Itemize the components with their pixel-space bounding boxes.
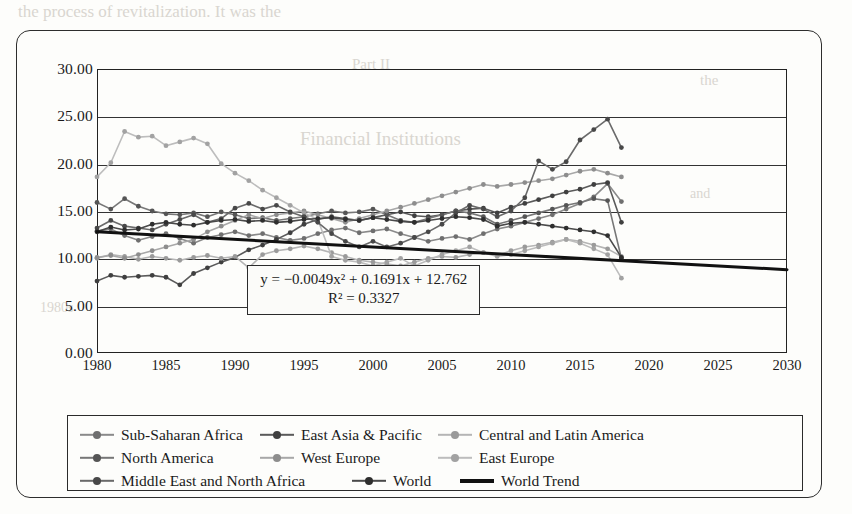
data-point — [412, 235, 417, 240]
data-point — [522, 180, 527, 185]
data-point — [315, 231, 320, 236]
data-point — [177, 139, 182, 144]
data-point — [150, 222, 155, 227]
data-point — [495, 224, 500, 229]
data-point — [578, 200, 583, 205]
legend-swatch-icon — [80, 429, 114, 441]
data-point — [302, 217, 307, 222]
data-point — [260, 231, 265, 236]
data-point — [329, 254, 334, 259]
data-point — [164, 211, 169, 216]
legend-marker-icon — [451, 454, 459, 462]
data-point — [550, 176, 555, 181]
data-point — [95, 279, 100, 284]
data-point — [150, 209, 155, 214]
data-point — [371, 228, 376, 233]
data-point — [219, 161, 224, 166]
data-point — [205, 214, 210, 219]
legend-item[interactable]: Central and Latin America — [438, 426, 673, 444]
data-point — [219, 210, 224, 215]
data-point — [398, 205, 403, 210]
data-point — [481, 217, 486, 222]
data-point — [191, 212, 196, 217]
data-point — [522, 201, 527, 206]
data-point — [302, 236, 307, 241]
data-point — [246, 178, 251, 183]
data-point — [150, 248, 155, 253]
legend-item[interactable]: East Europe — [438, 449, 673, 467]
equation-line-1: y = −0.0049x² + 0.1691x + 12.762 — [260, 271, 467, 287]
data-point — [219, 232, 224, 237]
legend-swatch-icon — [260, 452, 294, 464]
data-point — [164, 245, 169, 250]
data-point — [357, 230, 362, 235]
legend-swatch-icon — [80, 452, 114, 464]
y-tick-label: 25.00 — [37, 107, 93, 125]
legend-item[interactable]: East Asia & Pacific — [260, 426, 438, 444]
data-point — [288, 210, 293, 215]
legend-row: Middle East and North AfricaWorldWorld T… — [80, 469, 792, 492]
data-point — [384, 227, 389, 232]
x-tick-label: 2010 — [497, 357, 526, 374]
legend-swatch-icon — [438, 452, 472, 464]
legend-item[interactable]: West Europe — [260, 449, 438, 467]
legend-label: West Europe — [301, 449, 380, 467]
data-point — [246, 247, 251, 252]
legend-label: World — [393, 472, 431, 490]
data-point — [453, 234, 458, 239]
legend-item[interactable]: World — [352, 472, 460, 490]
data-point — [481, 231, 486, 236]
legend-label: World Trend — [501, 472, 579, 490]
legend-item[interactable]: North America — [80, 449, 260, 467]
data-point — [343, 217, 348, 222]
x-tick-label: 1980 — [83, 357, 112, 374]
data-point — [219, 218, 224, 223]
data-point — [191, 271, 196, 276]
data-point — [246, 233, 251, 238]
data-point — [550, 241, 555, 246]
chart-legend: Sub-Saharan AfricaEast Asia & PacificCen… — [67, 415, 803, 491]
series-north-america — [95, 196, 624, 260]
data-point — [467, 210, 472, 215]
data-point — [191, 223, 196, 228]
data-point — [288, 230, 293, 235]
data-point — [246, 219, 251, 224]
data-point — [164, 256, 169, 261]
data-point — [398, 219, 403, 224]
data-point — [288, 246, 293, 251]
y-tick-label: 5.00 — [37, 297, 93, 315]
data-point — [591, 127, 596, 132]
data-point — [136, 274, 141, 279]
data-point — [426, 229, 431, 234]
legend-label: East Europe — [479, 449, 554, 467]
data-point — [274, 212, 279, 217]
data-point — [481, 182, 486, 187]
data-point — [564, 173, 569, 178]
legend-item[interactable]: World Trend — [460, 472, 620, 490]
legend-item[interactable]: Middle East and North Africa — [80, 472, 352, 490]
data-point — [509, 182, 514, 187]
data-point — [467, 215, 472, 220]
legend-row: North AmericaWest EuropeEast Europe — [80, 446, 792, 469]
data-point — [605, 180, 610, 185]
data-point — [136, 238, 141, 243]
data-point — [357, 218, 362, 223]
data-point — [150, 134, 155, 139]
series-path — [97, 199, 621, 259]
data-point — [371, 239, 376, 244]
legend-marker-icon — [93, 477, 101, 485]
data-point — [177, 241, 182, 246]
data-point — [619, 199, 624, 204]
data-point — [398, 210, 403, 215]
chart-canvas: 0.005.0010.0015.0020.0025.0030.00 198019… — [37, 47, 805, 397]
data-point — [205, 229, 210, 234]
data-point — [619, 220, 624, 225]
legend-item[interactable]: Sub-Saharan Africa — [80, 426, 260, 444]
y-axis-labels: 0.005.0010.0015.0020.0025.0030.00 — [37, 69, 93, 353]
data-point — [578, 169, 583, 174]
data-point — [509, 209, 514, 214]
data-point — [453, 214, 458, 219]
data-point — [536, 222, 541, 227]
legend-swatch-icon — [460, 475, 494, 487]
equation-line-2: R² = 0.3327 — [260, 289, 467, 308]
